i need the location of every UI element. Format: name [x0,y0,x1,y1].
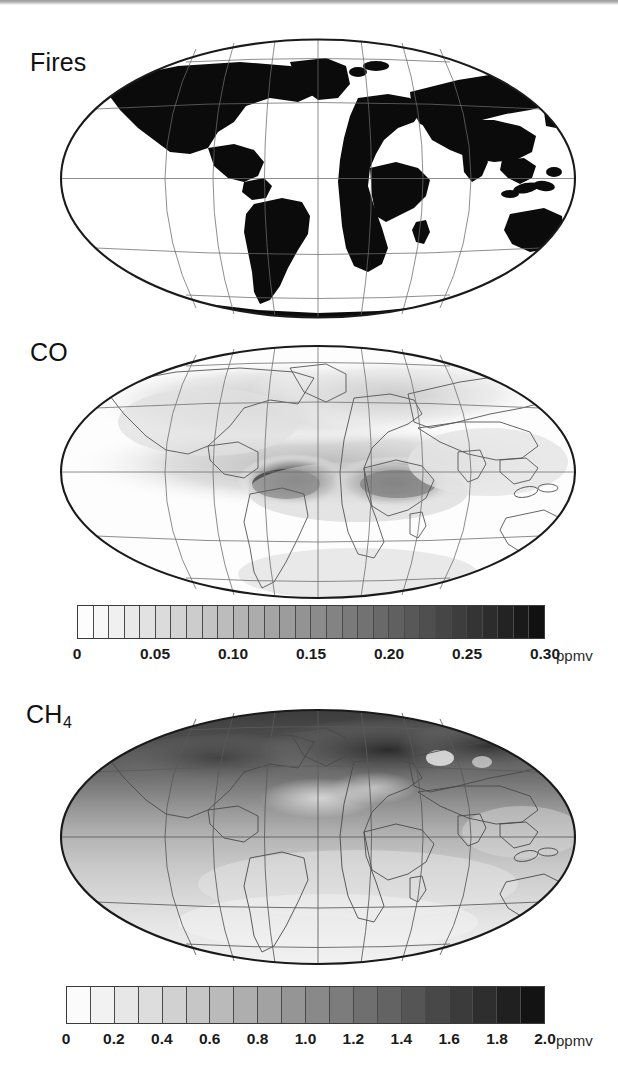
colorbar-cell [389,606,405,638]
colorbar-tick-label: 0 [62,1030,71,1048]
colorbar-cell [327,606,343,638]
colorbar-cell [115,987,139,1023]
colorbar-ch4-unit: ppmv [556,1032,593,1049]
colorbar-cell [452,606,468,638]
map-ch4-svg [58,706,578,968]
colorbar-tick-label: 0.10 [218,645,248,663]
colorbar-cell [187,987,211,1023]
colorbar-ch4-bar [66,986,545,1024]
colorbar-cell [358,606,374,638]
colorbar-cell [282,987,306,1023]
colorbar-cell [234,606,250,638]
colorbar-tick-label: 2.0 [534,1030,556,1048]
colorbar-cell [203,606,219,638]
colorbar-cell [67,987,91,1023]
panel-ch4: CH4 [0,692,618,1083]
colorbar-cell [405,606,421,638]
colorbar-co-unit: ppmv [556,647,593,664]
colorbar-cell [343,606,359,638]
colorbar-co-ticks: 00.050.100.150.200.250.30 [0,645,618,669]
colorbar-cell [91,987,115,1023]
colorbar-cell [378,987,402,1023]
colorbar-tick-label: 0.2 [103,1030,125,1048]
colorbar-cell [402,987,426,1023]
colorbar-cell [94,606,110,638]
colorbar-tick-label: 1.8 [486,1030,508,1048]
map-ch4 [58,706,578,968]
colorbar-cell [171,606,187,638]
colorbar-tick-label: 1.0 [295,1030,317,1048]
colorbar-cell [125,606,141,638]
colorbar-cell [426,987,450,1023]
colorbar-cell [280,606,296,638]
colorbar-cell [498,606,514,638]
colorbar-cell [529,606,544,638]
colorbar-cell [187,606,203,638]
colorbar-co-bar [77,605,545,639]
colorbar-cell [467,606,483,638]
colorbar-cell [483,606,499,638]
colorbar-cell [330,987,354,1023]
colorbar-tick-label: 0.20 [374,645,404,663]
colorbar-cell [258,987,282,1023]
colorbar-cell [156,606,172,638]
colorbar-co: 00.050.100.150.200.250.30 ppmv [0,605,618,675]
colorbar-cell [354,987,378,1023]
colorbar-tick-label: 1.4 [391,1030,413,1048]
colorbar-cell [109,606,125,638]
colorbar-cell [139,987,163,1023]
colorbar-tick-label: 0.15 [296,645,326,663]
colorbar-cell [249,606,265,638]
colorbar-cell [473,987,497,1023]
colorbar-tick-label: 0.05 [140,645,170,663]
colorbar-cell [265,606,281,638]
colorbar-tick-label: 0 [73,645,82,663]
colorbar-cell [514,606,530,638]
colorbar-tick-label: 0.25 [452,645,482,663]
colorbar-tick-label: 0.8 [247,1030,269,1048]
colorbar-cell [306,987,330,1023]
colorbar-cell [234,987,258,1023]
colorbar-cell [497,987,521,1023]
colorbar-tick-label: 1.6 [438,1030,460,1048]
colorbar-cell [374,606,390,638]
colorbar-cell [450,987,474,1023]
colorbar-cell [311,606,327,638]
map-fires [58,36,578,321]
panel-fires: Fires [0,0,618,330]
colorbar-cell [436,606,452,638]
colorbar-cell [140,606,156,638]
colorbar-cell [210,987,234,1023]
map-co [58,342,578,602]
colorbar-tick-label: 1.2 [343,1030,365,1048]
colorbar-ch4-ticks: 00.20.40.60.81.01.21.41.61.82.0 [0,1030,618,1054]
map-fires-svg [58,36,578,321]
colorbar-cell [218,606,234,638]
colorbar-cell [78,606,94,638]
colorbar-ch4: 00.20.40.60.81.01.21.41.61.82.0 ppmv [0,986,618,1056]
map-co-svg [58,342,578,602]
colorbar-cell [296,606,312,638]
colorbar-cell [420,606,436,638]
colorbar-tick-label: 0.6 [199,1030,221,1048]
colorbar-cell [521,987,544,1023]
panel-co: CO [0,330,618,680]
colorbar-tick-label: 0.4 [151,1030,173,1048]
colorbar-cell [163,987,187,1023]
